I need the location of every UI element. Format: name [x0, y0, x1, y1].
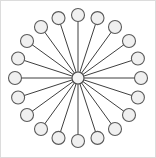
graph-leaf-node[interactable]: [52, 131, 65, 144]
graph-edge: [78, 41, 129, 78]
graph-leaf-node[interactable]: [72, 9, 85, 22]
graph-edge: [78, 78, 129, 115]
graph-leaf-node[interactable]: [91, 131, 104, 144]
graph-leaf-node[interactable]: [35, 123, 48, 136]
graph-edge: [59, 78, 79, 138]
graph-leaf-node[interactable]: [35, 21, 48, 34]
graph-leaf-node[interactable]: [9, 72, 22, 85]
graph-leaf-node[interactable]: [12, 52, 25, 65]
graph-leaf-node[interactable]: [109, 21, 122, 34]
graph-leaf-node[interactable]: [109, 123, 122, 136]
graph-leaf-node[interactable]: [123, 35, 136, 48]
graph-leaf-node[interactable]: [12, 91, 25, 104]
graph-leaf-node[interactable]: [135, 72, 148, 85]
graph-leaf-node[interactable]: [123, 109, 136, 122]
graph-leaf-node[interactable]: [52, 12, 65, 25]
graph-leaf-node[interactable]: [21, 35, 34, 48]
graph-edge: [78, 18, 98, 78]
graph-edge: [59, 18, 79, 78]
graph-leaf-node[interactable]: [21, 109, 34, 122]
graph-edge: [41, 78, 78, 129]
graph-edge: [78, 27, 115, 78]
graph-edge: [27, 41, 78, 78]
graph-leaf-node[interactable]: [131, 91, 144, 104]
graph-edge: [78, 78, 115, 129]
graph-edge: [78, 59, 138, 79]
graph-edge: [78, 78, 138, 98]
graph-edge: [27, 78, 78, 115]
graph-leaf-node[interactable]: [72, 135, 85, 148]
graph-edge: [18, 78, 78, 98]
graph-hub-node[interactable]: [72, 72, 84, 84]
graph-edge: [18, 59, 78, 79]
star-graph-canvas: [0, 0, 156, 158]
star-graph-figure: Star graph: [0, 0, 156, 158]
graph-edge: [78, 78, 98, 138]
graph-edge: [41, 27, 78, 78]
graph-leaf-node[interactable]: [91, 12, 104, 25]
graph-leaf-node[interactable]: [131, 52, 144, 65]
